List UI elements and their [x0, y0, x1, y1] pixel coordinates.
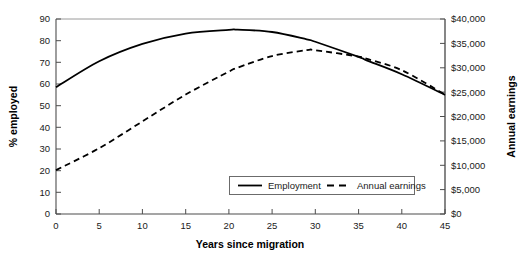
x-tick-label: 45 — [440, 220, 451, 231]
x-axis: 0 5 10 15 20 25 30 35 40 45 Years since … — [53, 209, 450, 250]
y-axis-title: % employed — [7, 86, 19, 147]
x-tick-label: 20 — [224, 220, 235, 231]
x-tick-label: 30 — [310, 220, 321, 231]
y-tick-label: 70 — [39, 57, 50, 68]
x-tick-label: 0 — [53, 220, 58, 231]
x-tick-label: 10 — [137, 220, 148, 231]
legend-label-employment: Employment — [268, 180, 321, 191]
y-tick-label: 30 — [39, 143, 50, 154]
y2-tick-label: $15,000 — [451, 135, 485, 146]
x-tick-label: 15 — [180, 220, 191, 231]
y2-tick-label: $40,000 — [451, 13, 485, 24]
x-axis-title: Years since migration — [196, 238, 305, 250]
y2-tick-label: $25,000 — [451, 87, 485, 98]
y2-tick-label: $35,000 — [451, 38, 485, 49]
employment-earnings-line-chart: 0 10 20 30 40 50 60 70 80 90 % employed … — [0, 0, 530, 260]
legend: Employment Annual earnings — [230, 177, 426, 195]
y-tick-label: 20 — [39, 165, 50, 176]
y-tick-label: 60 — [39, 78, 50, 89]
y2-tick-label: $30,000 — [451, 62, 485, 73]
y-tick-label: 90 — [39, 13, 50, 24]
y2-tick-label: $20,000 — [451, 111, 485, 122]
y-tick-label: 0 — [45, 208, 50, 219]
x-tick-label: 25 — [267, 220, 278, 231]
y-axis-right: $0 $5,000 $10,000 $15,000 $20,000 $25,00… — [440, 13, 517, 219]
x-tick-label: 40 — [397, 220, 408, 231]
y-axis-left: 0 10 20 30 40 50 60 70 80 90 % employed — [7, 13, 61, 219]
y-tick-label: 80 — [39, 35, 50, 46]
y2-tick-label: $10,000 — [451, 160, 485, 171]
x-tick-label: 35 — [353, 220, 364, 231]
legend-label-annual-earnings: Annual earnings — [357, 180, 426, 191]
y-tick-label: 10 — [39, 187, 50, 198]
y-tick-label: 40 — [39, 122, 50, 133]
series-group — [56, 29, 445, 170]
y2-tick-label: $0 — [451, 208, 462, 219]
y2-tick-label: $5,000 — [451, 184, 480, 195]
y-tick-label: 50 — [39, 100, 50, 111]
y2-axis-title: Annual earnings — [505, 75, 517, 157]
chart-figure: 0 10 20 30 40 50 60 70 80 90 % employed … — [0, 0, 530, 260]
x-tick-label: 5 — [97, 220, 102, 231]
